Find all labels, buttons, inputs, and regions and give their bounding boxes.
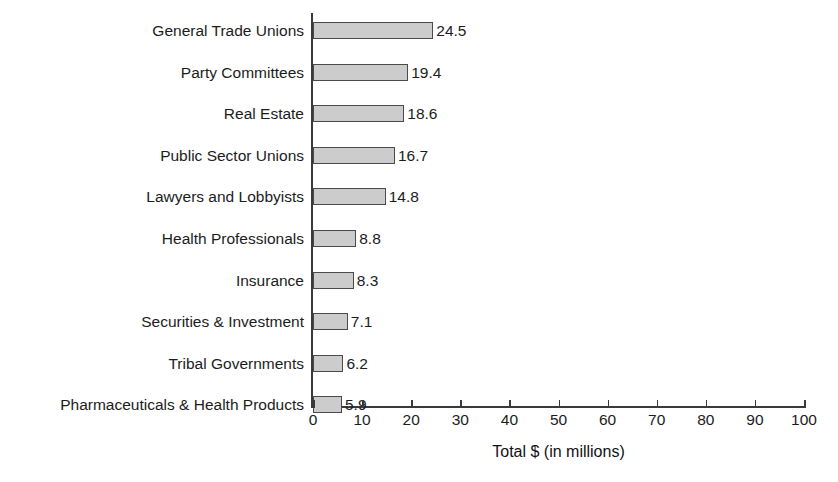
- bar: [313, 272, 354, 289]
- bar-value-label: 6.2: [346, 354, 368, 374]
- bar-row: Real Estate18.6: [0, 104, 838, 124]
- bar-row: Health Professionals8.8: [0, 229, 838, 249]
- bar-row: Securities & Investment7.1: [0, 312, 838, 332]
- bar: [313, 105, 404, 122]
- bar-value-label: 18.6: [407, 104, 437, 124]
- x-axis-tick-label: 80: [686, 411, 726, 429]
- bar-value-label: 16.7: [398, 146, 428, 166]
- x-axis-tick: [706, 400, 708, 408]
- x-axis-tick-label: 70: [637, 411, 677, 429]
- category-label: Real Estate: [4, 104, 304, 124]
- bar: [313, 313, 348, 330]
- bar: [313, 64, 408, 81]
- x-axis-tick-label: 90: [735, 411, 775, 429]
- x-axis-tick: [657, 400, 659, 408]
- plot-area: General Trade Unions24.5Party Committees…: [0, 0, 838, 482]
- category-label: Insurance: [4, 271, 304, 291]
- x-axis-tick-label: 30: [440, 411, 480, 429]
- x-axis-tick-label: 10: [342, 411, 382, 429]
- bar-value-label: 19.4: [411, 63, 441, 83]
- x-axis-title: Total $ (in millions): [313, 443, 804, 461]
- category-label: Tribal Governments: [4, 354, 304, 374]
- category-label: Securities & Investment: [4, 312, 304, 332]
- bar-value-label: 14.8: [389, 187, 419, 207]
- bar: [313, 230, 356, 247]
- category-label: Lawyers and Lobbyists: [4, 187, 304, 207]
- category-label: Health Professionals: [4, 229, 304, 249]
- category-label: Pharmaceuticals & Health Products: [4, 395, 304, 415]
- x-axis-tick-label: 50: [539, 411, 579, 429]
- bar-row: Lawyers and Lobbyists14.8: [0, 187, 838, 207]
- bar-row: Tribal Governments6.2: [0, 354, 838, 374]
- x-axis-tick: [509, 400, 511, 408]
- bar-chart: General Trade Unions24.5Party Committees…: [0, 0, 838, 482]
- bar-value-label: 24.5: [436, 21, 466, 41]
- bar: [313, 22, 433, 39]
- x-axis-tick: [411, 400, 413, 408]
- category-label: General Trade Unions: [4, 21, 304, 41]
- bar: [313, 147, 395, 164]
- bar-value-label: 7.1: [351, 312, 373, 332]
- x-axis-tick-label: 100: [784, 411, 824, 429]
- x-axis-tick-label: 0: [293, 411, 333, 429]
- category-label: Public Sector Unions: [4, 146, 304, 166]
- x-axis-tick-label: 20: [391, 411, 431, 429]
- bar: [313, 355, 343, 372]
- x-axis-tick: [313, 400, 315, 408]
- bar-value-label: 8.8: [359, 229, 381, 249]
- bar-row: General Trade Unions24.5: [0, 21, 838, 41]
- bar-row: Public Sector Unions16.7: [0, 146, 838, 166]
- x-axis-tick-label: 60: [588, 411, 628, 429]
- bar: [313, 188, 386, 205]
- bar-row: Party Committees19.4: [0, 63, 838, 83]
- category-label: Party Committees: [4, 63, 304, 83]
- x-axis-tick-label: 40: [489, 411, 529, 429]
- x-axis-tick: [460, 400, 462, 408]
- x-axis-tick: [559, 400, 561, 408]
- bar-value-label: 8.3: [357, 271, 379, 291]
- bar-row: Insurance8.3: [0, 271, 838, 291]
- x-axis-tick: [362, 400, 364, 408]
- x-axis-tick: [804, 400, 806, 408]
- x-axis-tick: [608, 400, 610, 408]
- x-axis-tick: [755, 400, 757, 408]
